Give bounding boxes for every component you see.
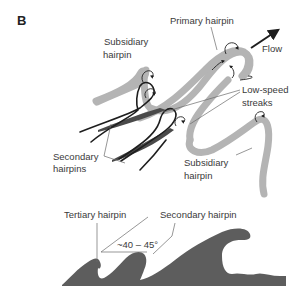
tertiary-hairpin-label: Tertiary hairpin <box>64 209 126 220</box>
bottom-diagram: Tertiary hairpin Secondary hairpin ~40 –… <box>62 209 286 286</box>
subsidiary-hairpin-bottom-label-1: Subsidiary <box>184 157 229 168</box>
hairpin-vortex-diagram: B <box>0 0 307 298</box>
rotation-arrow-icon <box>230 66 234 78</box>
top-diagram: Primary hairpin Flow Subsidiary hairpin … <box>53 15 288 194</box>
low-speed-streaks-label-1: Low-speed <box>242 84 288 95</box>
subsidiary-hairpin-bottom-label-2: hairpin <box>184 170 213 181</box>
low-speed-streaks-label-2: streaks <box>242 97 273 108</box>
primary-hairpin-leader <box>211 27 217 50</box>
secondary-hairpins-label-1: Secondary <box>53 151 99 162</box>
primary-hairpin-loop <box>140 51 250 118</box>
panel-label: B <box>17 13 26 28</box>
subsidiary-hairpin-top-label-2: hairpin <box>103 49 132 60</box>
rotation-arrow-icon <box>175 117 185 126</box>
angle-label: ~40 – 45° <box>117 239 158 250</box>
secondary-hairpin-label: Secondary hairpin <box>160 209 237 220</box>
subsidiary-hairpin-bottom-leader <box>236 148 252 155</box>
secondary-hairpins-label-2: hairpins <box>53 163 87 174</box>
primary-hairpin-label: Primary hairpin <box>170 15 234 26</box>
flow-label: Flow <box>262 43 282 54</box>
wave-profile <box>62 228 286 286</box>
subsidiary-hairpin-top-label-1: Subsidiary <box>104 36 149 47</box>
